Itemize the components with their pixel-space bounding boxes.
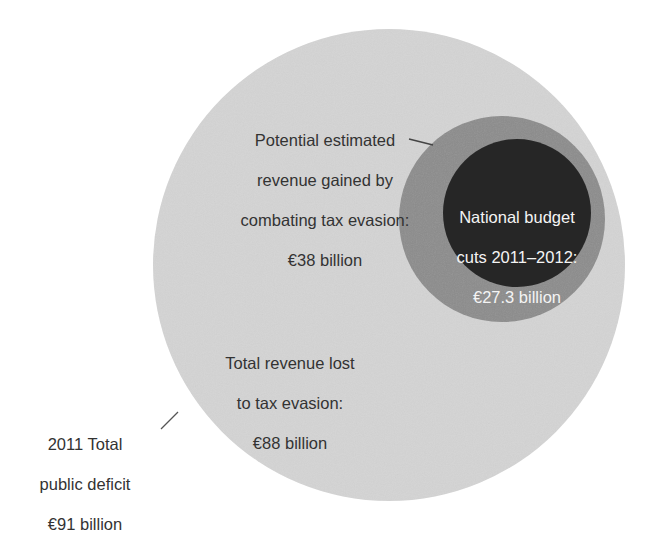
- label-potential-revenue: Potential estimated revenue gained by co…: [205, 110, 445, 290]
- label-line: €88 billion: [190, 433, 390, 453]
- label-line: National budget: [430, 207, 604, 227]
- label-line: revenue gained by: [205, 170, 445, 190]
- label-line: combating tax evasion:: [205, 210, 445, 230]
- label-line: 2011 Total: [15, 434, 155, 454]
- label-line: €91 billion: [15, 514, 155, 534]
- label-line: to tax evasion:: [190, 393, 390, 413]
- label-line: cuts 2011–2012:: [430, 247, 604, 267]
- label-budget-cuts: National budget cuts 2011–2012: €27.3 bi…: [430, 187, 604, 327]
- label-line: Total revenue lost: [190, 353, 390, 373]
- label-line: €27.3 billion: [430, 287, 604, 307]
- leader-line-deficit: [161, 412, 178, 429]
- label-line: €38 billion: [205, 250, 445, 270]
- label-line: public deficit: [15, 474, 155, 494]
- label-deficit: 2011 Total public deficit €91 billion: [15, 414, 155, 534]
- label-line: Potential estimated: [205, 130, 445, 150]
- label-tax-evasion-lost: Total revenue lost to tax evasion: €88 b…: [190, 333, 390, 473]
